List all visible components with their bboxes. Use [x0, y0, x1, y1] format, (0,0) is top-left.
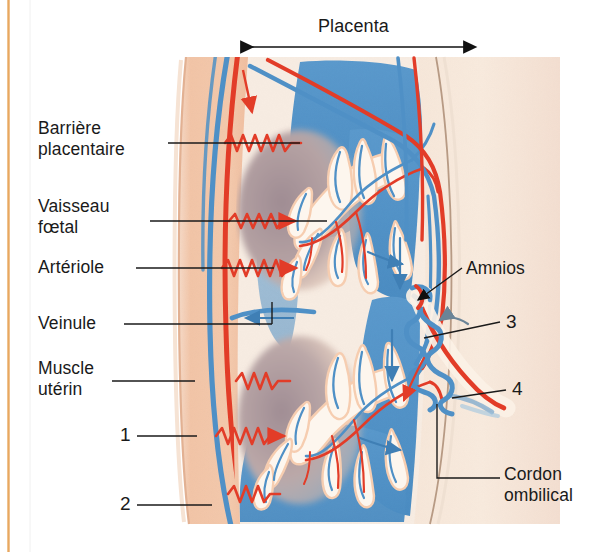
label-repere-2: 2 [120, 493, 131, 514]
page-frame-rule [9, 0, 31, 552]
label-repere-1: 1 [120, 424, 131, 445]
label-amnios: Amnios [466, 258, 525, 279]
label-repere-4: 4 [512, 378, 523, 399]
label-cordon-ombilical: Cordon ombilical [504, 464, 573, 506]
label-vaisseau-foetal: Vaisseau fœtal [38, 196, 110, 238]
label-veinule: Veinule [38, 313, 96, 334]
label-barriere-placentaire: Barrière placentaire [38, 118, 125, 160]
label-repere-3: 3 [506, 311, 517, 332]
label-muscle-uterin: Muscle utérin [38, 358, 94, 400]
label-arteriole: Artériole [38, 257, 104, 278]
page-title: Placenta [318, 16, 389, 37]
illustration [175, 50, 560, 530]
figure-root: Placenta Barrière placentaire Vaisseau f… [0, 0, 603, 552]
